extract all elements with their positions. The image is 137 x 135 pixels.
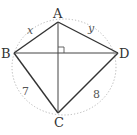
diagram-canvas: A B C D x y 7 8: [0, 0, 137, 135]
right-angle-marker: [58, 47, 64, 53]
quadrilateral-figure: A B C D x y 7 8: [0, 0, 137, 135]
vertex-label-c: C: [54, 115, 64, 130]
vertex-label-b: B: [1, 46, 11, 61]
side-label-x: x: [27, 24, 34, 37]
side-label-y: y: [87, 22, 95, 35]
vertex-label-d: D: [119, 46, 129, 61]
side-label-8: 8: [93, 88, 100, 101]
vertex-label-a: A: [52, 6, 63, 21]
side-cd: [58, 53, 118, 113]
side-label-7: 7: [22, 85, 29, 98]
side-bc: [14, 53, 58, 113]
